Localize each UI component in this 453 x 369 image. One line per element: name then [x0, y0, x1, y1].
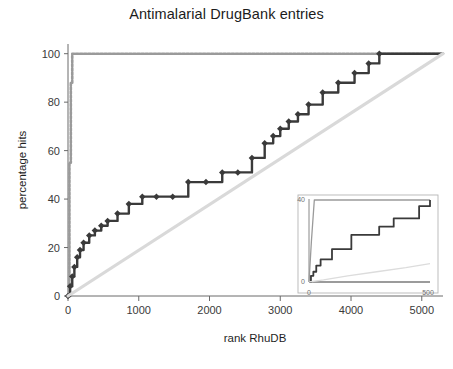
inset-xtick-max: 500: [422, 289, 434, 296]
data-point-marker: [277, 126, 284, 133]
x-tick-label: 2000: [197, 304, 221, 316]
y-axis-ticks: 020406080100: [42, 48, 68, 302]
inset-ytick-max: 40: [297, 196, 305, 203]
data-point-marker: [365, 60, 372, 67]
y-tick-label: 60: [48, 145, 60, 157]
data-point-marker: [319, 89, 326, 96]
data-point-marker: [219, 169, 226, 176]
x-axis-title: rank RhuDB: [224, 332, 287, 344]
data-point-marker: [139, 193, 146, 200]
x-tick-label: 0: [65, 304, 71, 316]
x-axis-ticks: 010002000300040005000: [65, 296, 434, 316]
inset-frame: [298, 195, 438, 293]
data-point-marker: [286, 118, 293, 125]
data-point-marker: [114, 210, 121, 217]
y-tick-label: 0: [54, 290, 60, 302]
data-point-marker: [92, 227, 99, 234]
x-tick-label: 3000: [268, 304, 292, 316]
y-tick-label: 40: [48, 193, 60, 205]
data-point-marker: [261, 140, 268, 147]
x-tick-label: 5000: [410, 304, 434, 316]
inset-ytick-min: 0: [301, 278, 305, 285]
data-point-marker: [169, 193, 176, 200]
data-point-marker: [80, 239, 87, 246]
data-point-marker: [351, 70, 358, 77]
data-point-marker: [335, 80, 342, 87]
y-tick-label: 80: [48, 96, 60, 108]
data-point-marker: [203, 179, 210, 186]
chart-figure: Antimalarial DrugBank entries 0204060801…: [0, 0, 453, 369]
data-point-marker: [153, 193, 160, 200]
data-point-marker: [77, 247, 84, 254]
data-point-marker: [270, 133, 277, 140]
data-point-marker: [376, 50, 383, 57]
y-tick-label: 20: [48, 242, 60, 254]
data-point-marker: [295, 111, 302, 118]
x-tick-label: 1000: [127, 304, 151, 316]
inset-xtick-min: 0: [307, 289, 311, 296]
data-point-marker: [235, 169, 242, 176]
plot-area: 020406080100 010002000300040005000 rank …: [0, 0, 453, 369]
data-point-marker: [98, 222, 105, 229]
data-point-marker: [249, 155, 256, 162]
data-point-marker: [104, 218, 111, 225]
x-tick-label: 4000: [339, 304, 363, 316]
data-point-marker: [305, 101, 312, 108]
data-point-marker: [126, 201, 133, 208]
y-axis-title: percentage hits: [16, 130, 28, 209]
inset-plot: 40 0 0 500: [297, 195, 438, 296]
y-tick-label: 100: [42, 48, 60, 60]
data-point-marker: [185, 179, 192, 186]
data-point-marker: [86, 232, 93, 239]
